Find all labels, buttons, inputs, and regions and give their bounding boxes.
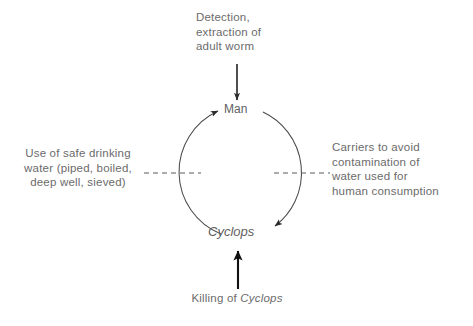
diagram-canvas: Man Cyclops Detection, extraction of adu… (0, 0, 473, 326)
annotation-killing-cyclops: Killing of Cyclops (163, 291, 311, 306)
annotation-killing-prefix: Killing of (191, 292, 240, 304)
node-label-man: Man (224, 102, 247, 116)
annotation-carriers-contamination: Carriers to avoid contamination of water… (332, 140, 470, 198)
annotation-safe-drinking-water: Use of safe drinking water (piped, boile… (8, 146, 148, 190)
annotation-detection-extraction: Detection, extraction of adult worm (196, 10, 316, 54)
arc-man-to-cyclops (263, 112, 301, 226)
node-label-cyclops: Cyclops (208, 225, 254, 239)
annotation-killing-species: Cyclops (240, 292, 282, 304)
